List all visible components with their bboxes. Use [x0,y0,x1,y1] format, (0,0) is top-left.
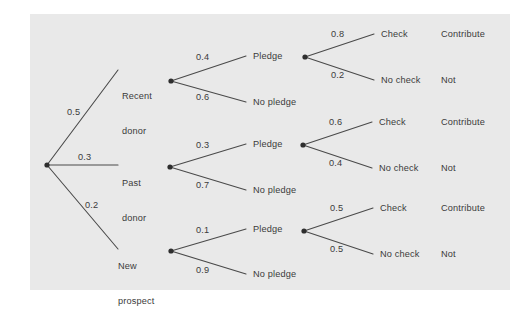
outcome-past-nocheck: Not [441,163,456,174]
outcome-new-nocheck: Not [441,249,456,260]
prob-new-nopledge: 0.9 [196,265,209,276]
prob-root-new: 0.2 [85,200,98,211]
node-new-pledge [301,228,306,233]
edge-root-recent [47,70,118,165]
node-label-new-nopledge: No pledge [253,269,296,280]
edge-root-new [47,165,118,249]
outcome-past-check: Contribute [441,117,485,128]
node-new-prospect [168,248,173,253]
node-label-recent-donor: Recent donor [122,68,152,160]
outcome-new-check: Contribute [441,203,485,214]
node-label-recent-donor-line1: Recent [122,91,152,103]
prob-root-past: 0.3 [78,152,91,163]
outcome-recent-nocheck: Not [441,75,456,86]
node-recent-donor [168,78,173,83]
node-label-past-donor: Past donor [122,155,146,247]
prob-past-nocheck: 0.4 [329,158,342,169]
node-label-new-prospect-line2: prospect [118,296,154,308]
node-label-past-donor-line1: Past [122,178,146,190]
node-label-past-nopledge: No pledge [253,185,296,196]
node-past-donor [167,164,172,169]
node-recent-pledge [302,54,307,59]
node-label-recent-nopledge: No pledge [253,97,296,108]
node-label-past-check: Check [379,117,406,128]
node-label-new-prospect: New prospect [118,238,154,310]
node-label-past-donor-line2: donor [122,213,146,225]
node-label-recent-pledge: Pledge [253,51,283,62]
node-label-recent-check: Check [381,29,408,40]
outcome-recent-check: Contribute [441,29,485,40]
node-label-past-pledge: Pledge [253,139,283,150]
prob-recent-pledge: 0.4 [196,52,209,63]
node-label-new-check: Check [380,203,407,214]
node-label-new-nocheck: No check [380,249,420,260]
prob-recent-nocheck: 0.2 [331,70,344,81]
prob-new-pledge: 0.1 [196,225,209,236]
prob-past-pledge: 0.3 [196,140,209,151]
prob-recent-nopledge: 0.6 [196,92,209,103]
node-past-pledge [300,142,305,147]
node-label-new-prospect-line1: New [118,261,154,273]
prob-new-check: 0.5 [330,203,343,214]
node-label-recent-donor-line2: donor [122,126,152,138]
prob-root-recent: 0.5 [67,107,80,118]
prob-past-check: 0.6 [329,117,342,128]
node-label-recent-nocheck: No check [381,75,421,86]
node-root [44,162,49,167]
node-label-past-nocheck: No check [379,163,419,174]
prob-past-nopledge: 0.7 [196,180,209,191]
probability-tree-figure: 0.5 0.3 0.2 Recent donor Past donor New … [0,0,528,310]
prob-new-nocheck: 0.5 [330,244,343,255]
node-label-new-pledge: Pledge [253,224,283,235]
prob-recent-check: 0.8 [331,29,344,40]
